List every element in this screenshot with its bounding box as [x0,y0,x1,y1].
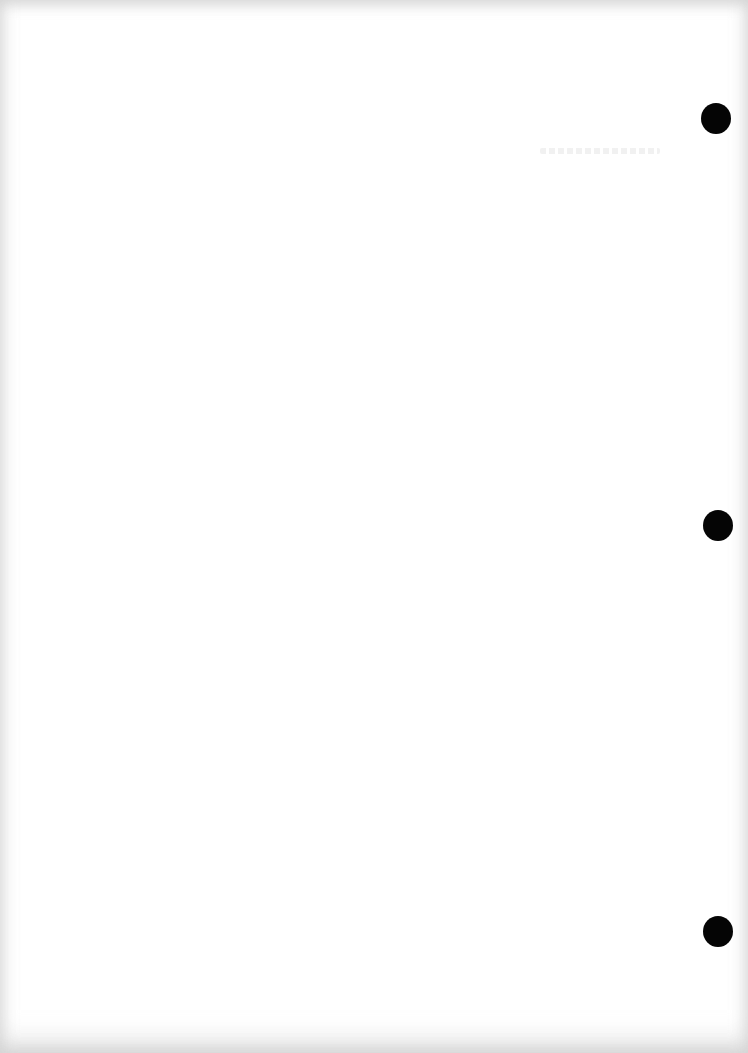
scanned-page [0,0,748,1053]
punch-hole-bottom [703,916,733,947]
faint-bleed-through-mark [540,148,660,154]
punch-hole-top [701,103,731,134]
punch-hole-middle [703,510,733,541]
